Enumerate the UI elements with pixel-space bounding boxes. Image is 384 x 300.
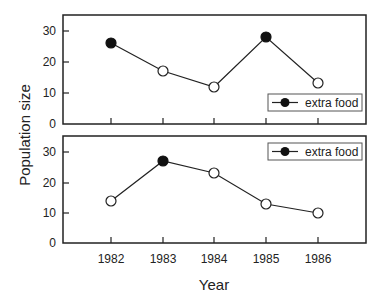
top-ytick-20: 20 — [43, 55, 57, 69]
top-point-1982 — [106, 38, 116, 48]
bottom-point-1984 — [209, 168, 219, 178]
legend-filled-marker-icon — [281, 98, 290, 107]
y-axis-title: Population size — [16, 84, 33, 186]
xtick-1984: 1984 — [201, 252, 228, 266]
bottom-x-ticks — [111, 237, 318, 243]
bottom-ytick-10: 10 — [43, 206, 57, 220]
top-legend: extra food — [268, 94, 362, 111]
bottom-ytick-0: 0 — [49, 236, 56, 250]
xtick-1985: 1985 — [253, 252, 280, 266]
xtick-1982: 1982 — [98, 252, 125, 266]
top-point-1983 — [158, 66, 168, 76]
legend-filled-marker-icon — [281, 147, 290, 156]
xtick-1986: 1986 — [305, 252, 332, 266]
top-point-1984 — [209, 82, 219, 92]
bottom-panel: 30 20 10 0 extra food — [43, 136, 366, 250]
bottom-point-1985 — [261, 199, 271, 209]
bottom-point-1986 — [313, 208, 323, 218]
top-y-ticks — [63, 31, 69, 93]
top-series-line — [111, 37, 318, 87]
xtick-1983: 1983 — [150, 252, 177, 266]
top-ytick-30: 30 — [43, 24, 57, 38]
top-panel: 30 20 10 0 extra food — [43, 15, 366, 131]
bottom-legend-label: extra food — [305, 145, 358, 159]
bottom-legend: extra food — [268, 143, 362, 160]
top-point-1985 — [261, 32, 271, 42]
bottom-ytick-20: 20 — [43, 176, 57, 190]
bottom-point-1983 — [158, 156, 168, 166]
bottom-ytick-30: 30 — [43, 145, 57, 159]
top-point-1986 — [313, 78, 323, 88]
x-axis-title: Year — [199, 276, 229, 293]
top-x-ticks — [111, 118, 318, 124]
top-ytick-10: 10 — [43, 86, 57, 100]
bottom-point-1982 — [106, 196, 116, 206]
bottom-y-ticks — [63, 152, 69, 213]
top-ytick-0: 0 — [49, 117, 56, 131]
top-legend-label: extra food — [305, 96, 358, 110]
chart-figure: Population size 30 20 10 0 extra — [0, 0, 384, 300]
